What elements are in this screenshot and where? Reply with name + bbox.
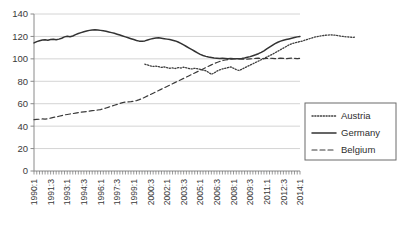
x-tick-label-2009:3: 2009:3 xyxy=(245,179,255,206)
y-tick-label-120: 120 xyxy=(12,31,28,42)
y-tick-label-80: 80 xyxy=(17,76,28,87)
y-tick-label-40: 40 xyxy=(17,121,28,132)
line-chart: 0204060801001201401990:11991:31993:11994… xyxy=(0,0,406,251)
x-tick-label-1997:3: 1997:3 xyxy=(112,179,122,206)
y-tick-label-20: 20 xyxy=(17,143,28,154)
x-tick-label-2014:1: 2014:1 xyxy=(295,179,305,206)
x-tick-label-2000:3: 2000:3 xyxy=(146,179,156,206)
y-tick-label-0: 0 xyxy=(23,165,28,176)
y-tick-label-60: 60 xyxy=(17,98,28,109)
x-tick-label-1991:3: 1991:3 xyxy=(46,179,56,206)
plot-area xyxy=(34,14,300,171)
legend-label-germany: Germany xyxy=(341,127,380,138)
chart-container: 0204060801001201401990:11991:31993:11994… xyxy=(0,0,406,251)
x-tick-label-1994:3: 1994:3 xyxy=(79,179,89,206)
x-tick-label-2003:3: 2003:3 xyxy=(179,179,189,206)
x-tick-label-2006:3: 2006:3 xyxy=(212,179,222,206)
legend-label-austria: Austria xyxy=(341,110,371,121)
x-tick-label-2005:1: 2005:1 xyxy=(195,179,205,206)
x-tick-label-1990:1: 1990:1 xyxy=(29,179,39,206)
y-tick-label-100: 100 xyxy=(12,53,28,64)
legend-label-belgium: Belgium xyxy=(341,144,375,155)
x-tick-label-2002:1: 2002:1 xyxy=(162,179,172,206)
x-tick-label-2012:3: 2012:3 xyxy=(279,179,289,206)
y-tick-label-140: 140 xyxy=(12,8,28,19)
x-tick-label-1999:1: 1999:1 xyxy=(129,179,139,206)
x-tick-label-2011:1: 2011:1 xyxy=(262,179,272,205)
x-tick-label-1996:1: 1996:1 xyxy=(96,179,106,206)
x-tick-label-2008:1: 2008:1 xyxy=(229,179,239,206)
x-tick-label-1993:1: 1993:1 xyxy=(62,179,72,206)
